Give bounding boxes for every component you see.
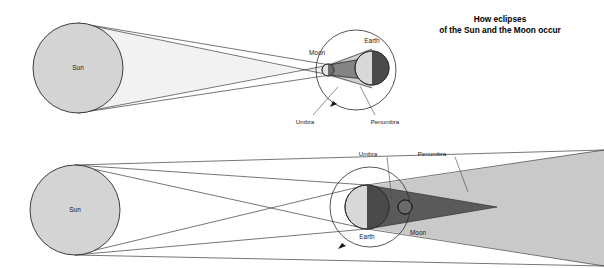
sun-label-top: Sun: [72, 64, 84, 71]
earth-label-top: Earth: [364, 37, 380, 44]
solar-penumbra-label: Penumbra: [371, 118, 400, 125]
solar-umbra-label: Umbra: [296, 118, 315, 125]
lunar-umbra-label: Umbra: [359, 150, 378, 157]
eclipse-diagram-figure: Sun Earth Moon Umbra Penumbra: [0, 0, 604, 268]
earth-label-bottom: Earth: [359, 233, 375, 240]
lunar-penumbra-label: Penumbra: [418, 150, 447, 157]
figure-title-line1: How eclipses: [474, 14, 527, 24]
sun-label-bottom: Sun: [69, 206, 81, 213]
moon-label-bottom: Moon: [410, 229, 426, 236]
figure-title-line2: of the Sun and the Moon occur: [439, 25, 561, 35]
eclipse-diagram-canvas: Sun Earth Moon Umbra Penumbra: [0, 0, 604, 268]
moon-label-top: Moon: [309, 49, 325, 56]
